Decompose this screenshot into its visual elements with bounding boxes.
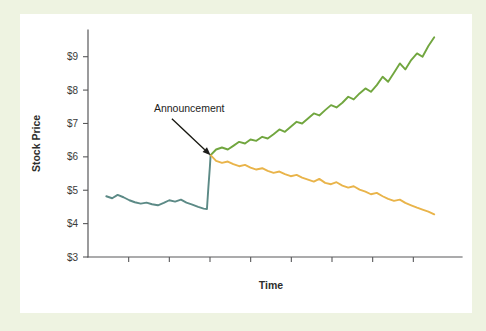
y-axis-tick-label: $5 [67, 185, 79, 196]
y-axis-tick-label: $9 [67, 51, 79, 62]
series-line-negative-outcome [211, 155, 435, 214]
annotation-arrow-line [172, 119, 205, 150]
y-axis-tick-label: $6 [67, 151, 79, 162]
y-axis-title: Stock Price [30, 115, 42, 172]
y-axis-tick-label: $8 [67, 85, 79, 96]
x-axis-title: Time [259, 279, 283, 291]
y-axis-tick-label: $4 [67, 218, 79, 229]
y-axis-tick-label: $7 [67, 118, 79, 129]
series-line-pre-announcement [106, 155, 210, 209]
series-line-positive-outcome [211, 37, 435, 155]
y-axis-tick-label: $3 [67, 252, 79, 263]
annotation-label: Announcement [154, 102, 225, 114]
stock-price-line-chart: $3$4$5$6$7$8$9TimeStock PriceAnnouncemen… [20, 14, 472, 313]
chart-canvas: $3$4$5$6$7$8$9TimeStock PriceAnnouncemen… [20, 14, 472, 313]
figure-frame: $3$4$5$6$7$8$9TimeStock PriceAnnouncemen… [0, 0, 486, 331]
